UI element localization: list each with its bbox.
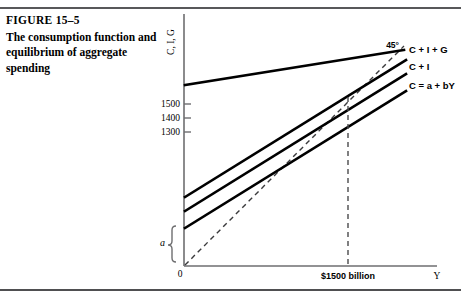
x-axis-annotation: $1500 billion — [321, 271, 375, 281]
chart-svg: 1500 1400 1300 C, I, G Y a 0 — [0, 0, 461, 300]
figure-container: FIGURE 15–5 The consumption function and… — [0, 0, 461, 300]
y-axis-label: C, I, G — [166, 29, 176, 55]
forty-five-degree-label: 45° — [386, 40, 399, 50]
plot-area: 1500 1400 1300 C, I, G Y a 0 — [0, 0, 461, 300]
line-c-equals-a-plus-by — [185, 91, 406, 228]
line-c-plus-i — [185, 74, 406, 211]
series-label-c-i: C + I — [409, 61, 429, 72]
series-label-c-equals-a-plus-by: C = a + bY — [409, 80, 456, 91]
y-tick-label-1400: 1400 — [161, 113, 180, 123]
series-label-c-i-g: C + I + G — [409, 44, 448, 55]
x-axis-label: Y — [434, 271, 441, 281]
intercept-label-a: a — [160, 237, 165, 248]
intercept-brace — [168, 226, 176, 262]
y-tick-label-1300: 1300 — [161, 127, 180, 137]
y-tick-label-1500: 1500 — [161, 99, 180, 109]
origin-label: 0 — [178, 269, 183, 279]
